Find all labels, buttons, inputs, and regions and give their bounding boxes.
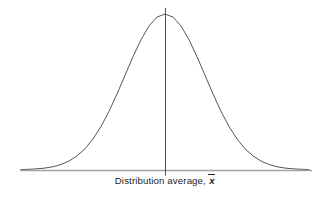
- distribution-plot: [0, 0, 330, 198]
- axis-caption-text: Distribution average,: [115, 175, 206, 186]
- axis-caption: Distribution average, x: [0, 175, 330, 187]
- mean-symbol: x: [209, 175, 216, 186]
- normal-distribution-figure: Distribution average, x: [0, 0, 330, 198]
